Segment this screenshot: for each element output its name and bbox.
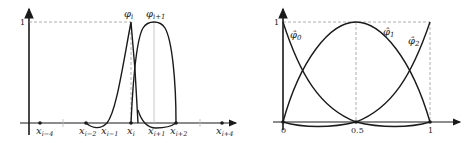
right-x-tick-1: 1 xyxy=(428,126,433,135)
phi-i-curve xyxy=(86,22,138,128)
x-label-i-1: xi−1 xyxy=(101,125,118,138)
right-y-tick-label: 1 xyxy=(274,18,279,27)
x-label-i4: xi+4 xyxy=(216,125,233,138)
right-x-tick-05: 0.5 xyxy=(351,126,364,135)
right-x-tick-0: 0 xyxy=(281,126,286,135)
phi-hat-0-label: φ̂0 xyxy=(290,29,302,42)
node-point xyxy=(428,120,432,124)
phi-i1-label: φi+1 xyxy=(146,8,166,21)
x-label-i: xi xyxy=(127,125,135,138)
node-point xyxy=(281,120,285,124)
figure: 1 φi φi+1 xi−4 xi−2 xi−1 xi xi+1 xi+2 xi… xyxy=(0,0,475,143)
left-y-tick-label: 1 xyxy=(20,18,25,27)
left-plot: 1 φi φi+1 xi−4 xi−2 xi−1 xi xi+1 xi+2 xi… xyxy=(20,8,236,138)
right-plot: 1 0 0.5 1 φ̂0 φ̂1 φ̂2 xyxy=(273,9,460,135)
phi-hat-2-label: φ̂2 xyxy=(408,35,420,48)
node-point xyxy=(354,120,358,124)
x-label-i2: xi+2 xyxy=(170,125,187,138)
node-point xyxy=(84,121,88,125)
phi-i-label: φi xyxy=(124,8,133,21)
x-label-i-4: xi−4 xyxy=(36,125,53,138)
phi-hat-1-label: φ̂1 xyxy=(383,26,394,39)
x-label-i1: xi+1 xyxy=(148,125,165,138)
